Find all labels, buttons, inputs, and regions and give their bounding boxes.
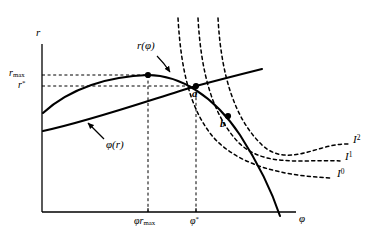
x-tick-label-phi-r-max: φrmax — [134, 216, 155, 227]
diagram-svg — [0, 0, 375, 239]
indifference-curve-group — [178, 18, 348, 178]
point-label-b: b — [220, 118, 226, 129]
curve-label-phi-of-r: φ(r) — [106, 139, 124, 150]
diagram-canvas: r φ rmax r* φrmax φ* r(φ) φ(r) a b I0 I1… — [0, 0, 375, 239]
curve-label-r-of-phi: r(φ) — [137, 40, 155, 51]
indifference-curve-I2 — [218, 18, 348, 155]
leader-arrow-r-of-phi — [157, 56, 170, 72]
indifference-label-I1: I1 — [345, 151, 352, 162]
x-axis-label: φ — [299, 213, 305, 224]
point-label-a: a — [192, 88, 198, 99]
y-axis-label: r — [36, 27, 40, 38]
indifference-I1-sup: 1 — [349, 150, 353, 159]
indifference-I0-sup: 0 — [341, 167, 345, 176]
x-tick-label-phi-star: φ* — [190, 216, 199, 226]
y-tick-label-r-star: r* — [18, 80, 25, 90]
y-tick-r-star-sup: * — [22, 79, 25, 86]
point-peak-dot — [145, 72, 151, 78]
y-tick-label-r-max: rmax — [9, 68, 25, 79]
indifference-label-I2: I2 — [353, 134, 360, 145]
x-tick-phi-star-sup: * — [196, 215, 199, 222]
indifference-I2-sup: 2 — [357, 133, 361, 142]
y-tick-r-max-sub: max — [13, 71, 25, 78]
leader-arrow-phi-of-r — [88, 123, 104, 139]
x-tick-phi-r-max-sub: max — [143, 219, 155, 226]
indifference-label-I0: I0 — [337, 168, 344, 179]
